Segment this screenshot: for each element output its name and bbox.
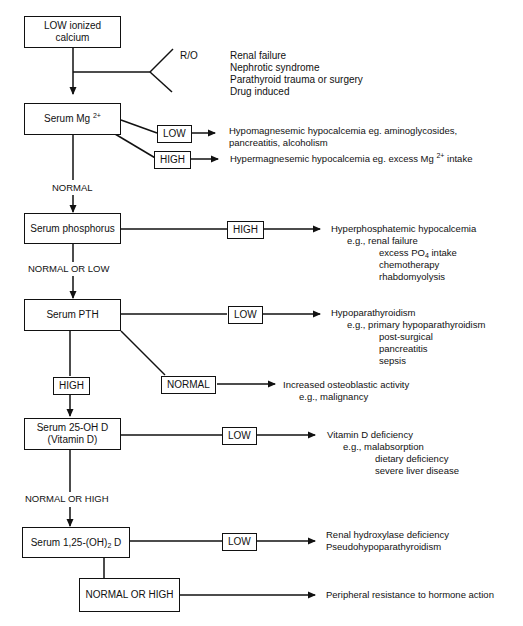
osteoblastic-result: Increased osteoblastic activity e.g., ma…	[283, 379, 409, 403]
renal-hydroxylase-result: Renal hydroxylase deficiency Pseudohypop…	[326, 529, 449, 553]
hyperphosphatemic-result: Hyperphosphatemic hypocalcemia e.g., ren…	[331, 223, 476, 283]
rule-out-item: Drug induced	[230, 86, 363, 98]
rule-out-list: Renal failure Nephrotic syndrome Parathy…	[230, 50, 363, 98]
d125-low-tag: LOW	[222, 533, 257, 551]
serum-pth-box: Serum PTH	[24, 299, 121, 331]
serum-mg-label: Serum Mg 2+	[44, 113, 101, 125]
rule-out-item: Nephrotic syndrome	[230, 62, 363, 74]
vitamin-d-deficiency-result: Vitamin D deficiency e.g., malabsorption…	[327, 429, 459, 477]
normal-or-high-box-label: NORMAL OR HIGH	[86, 589, 174, 601]
serum-25ohd-label: Serum 25-OH D	[37, 422, 109, 434]
serum-25ohd-box: Serum 25-OH D (Vitamin D)	[24, 418, 121, 450]
pth-low-tag: LOW	[228, 306, 263, 324]
hypoparathyroidism-result: Hypoparathyroidism e.g., primary hypopar…	[331, 307, 485, 367]
serum-125ohd-box: Serum 1,25-(OH)2 D	[22, 527, 130, 558]
vitd-normal-or-high-label: NORMAL OR HIGH	[25, 493, 109, 505]
mg-normal-label: NORMAL	[52, 182, 93, 194]
pth-normal-tag: NORMAL	[161, 376, 216, 394]
serum-phosphorus-label: Serum phosphorus	[30, 223, 115, 235]
serum-pth-label: Serum PTH	[46, 309, 98, 321]
pth-high-tag: HIGH	[53, 377, 90, 395]
serum-phosphorus-box: Serum phosphorus	[24, 213, 121, 244]
low-ionized-calcium-label: LOW ionized calcium	[38, 20, 108, 44]
phos-normal-or-low-label: NORMAL OR LOW	[28, 263, 109, 275]
vitamin-d-label: (Vitamin D)	[48, 434, 98, 446]
serum-125ohd-label: Serum 1,25-(OH)2 D	[31, 537, 122, 549]
rule-out-item: Parathyroid trauma or surgery	[230, 74, 363, 86]
hypermagnesemic-result: Hypermagnesemic hypocalcemia eg. excess …	[230, 153, 472, 165]
normal-or-high-box: NORMAL OR HIGH	[79, 578, 180, 612]
phos-high-tag: HIGH	[227, 221, 264, 239]
hypomagnesemic-result: Hypomagnesemic hypocalcemia eg. aminogly…	[229, 125, 457, 149]
mg-high-tag: HIGH	[154, 151, 191, 169]
peripheral-resistance-result: Peripheral resistance to hormone action	[326, 589, 494, 601]
vitd-low-tag: LOW	[222, 427, 257, 445]
rule-out-item: Renal failure	[230, 50, 363, 62]
serum-mg-box: Serum Mg 2+	[24, 103, 121, 135]
low-ionized-calcium-box: LOW ionized calcium	[24, 16, 121, 48]
mg-low-tag: LOW	[157, 125, 192, 143]
rule-out-label: R/O	[180, 50, 198, 62]
